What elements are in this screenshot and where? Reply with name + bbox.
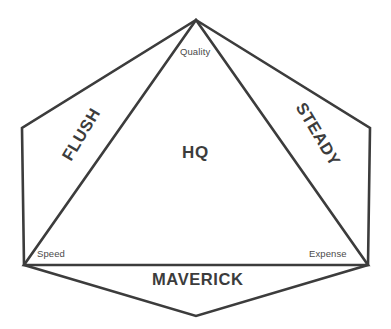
vertex-label-quality: Quality: [180, 47, 210, 57]
center-label-hq: HQ: [182, 144, 209, 161]
vertex-label-expense: Expense: [309, 249, 347, 259]
diagram-canvas: Quality Speed Expense HQ FLUSH STEADY MA…: [0, 0, 391, 329]
vertex-label-speed: Speed: [37, 249, 65, 259]
region-label-maverick: MAVERICK: [152, 271, 244, 288]
